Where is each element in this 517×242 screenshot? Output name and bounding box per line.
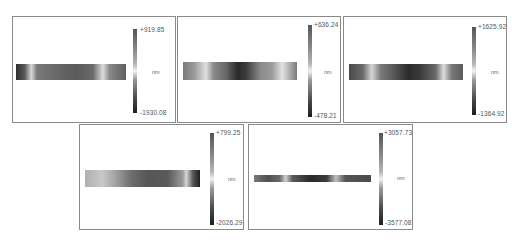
colorbar (308, 25, 312, 117)
height-map-strip (349, 64, 463, 80)
colorbar (379, 133, 383, 225)
height-map-strip (16, 64, 126, 80)
colorbar (133, 29, 137, 113)
colorbar-unit-label: nm (397, 175, 405, 181)
colorbar-unit-label: nm (228, 176, 236, 182)
height-map-strip (254, 175, 371, 182)
colorbar-min-label: -2026.29 (216, 219, 242, 226)
surface-map-panel-3: +1625.92 nm -1364.92 (343, 16, 507, 123)
colorbar-min-label: -1930.08 (140, 109, 166, 116)
colorbar-unit-label: nm (324, 69, 332, 75)
colorbar-max-label: +1625.92 (478, 23, 506, 30)
height-map-strip (183, 62, 297, 80)
colorbar-unit-label: nm (152, 69, 160, 75)
colorbar (472, 27, 476, 115)
surface-map-panel-1: +919.85 nm -1930.08 (12, 16, 176, 123)
colorbar-min-label: -1364.92 (478, 110, 504, 117)
colorbar-min-label: -3577.08 (385, 219, 411, 226)
surface-map-panel-2: +636.24 nm -478.21 (177, 16, 341, 123)
colorbar-max-label: +3057.73 (384, 129, 412, 136)
colorbar-max-label: +919.85 (140, 26, 164, 33)
colorbar-unit-label: nm (491, 69, 499, 75)
surface-map-panel-4: +799.25 nm -2026.29 (79, 124, 244, 230)
colorbar (210, 133, 214, 225)
colorbar-min-label: -478.21 (314, 112, 337, 119)
surface-map-panel-5: +3057.73 nm -3577.08 (248, 124, 413, 230)
height-map-strip (85, 170, 200, 187)
colorbar-max-label: +799.25 (216, 129, 240, 136)
colorbar-max-label: +636.24 (314, 21, 338, 28)
